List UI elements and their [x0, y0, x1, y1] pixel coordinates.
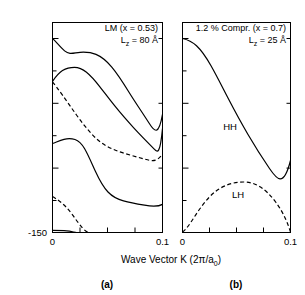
panel-a-frame-top	[53, 23, 163, 233]
panel-a-x-tick-label-1b: 0.1	[156, 236, 169, 247]
panel-b-x-ticks	[210, 228, 264, 233]
x-axis-title-close: )	[218, 254, 221, 265]
panel-a-frame	[53, 23, 163, 233]
figure-root: 0 -50 -100 -150 0 0.1 Energy (meV) LM (x…	[0, 0, 305, 295]
band-structure-figure: 0 -50 -100 -150 0 0.1 Energy (meV) LM (x…	[0, 0, 305, 295]
band-label-lh: LH	[232, 189, 244, 200]
x-axis-title: Wave Vector K (2π/a0)	[121, 254, 221, 267]
curve-panel-a-band-5	[53, 197, 89, 233]
curve-panel-a-band-3	[53, 82, 163, 161]
curve-panel-b-hh	[183, 39, 291, 179]
panel-b-y-ticks	[183, 39, 189, 201]
panel-a-annotation-line2: Lz = 80 Å	[121, 35, 158, 47]
panel-b-anno-value: = 25 Å	[257, 35, 286, 45]
panel-a-y-ticks	[53, 39, 59, 233]
curve-panel-a-band-4	[53, 139, 163, 207]
curve-panel-a-band-1	[53, 39, 163, 131]
panel-b-x-tick-label-0b: 0	[180, 236, 185, 247]
panel-a-caption: (a)	[101, 279, 113, 290]
panel-b-annotation-line1: 1.2 % Compr. (x = 0.7)	[196, 23, 286, 33]
panel-a-curves	[53, 39, 163, 233]
panel-b-caption: (b)	[230, 279, 243, 290]
top-mask-2	[0, 0, 305, 22]
panel-a-anno-value: = 80 Å	[129, 35, 158, 45]
panel-a-annotation-line1: LM (x = 0.53)	[105, 23, 158, 33]
x-axis-title-main: Wave Vector K (2	[121, 254, 199, 265]
panel-b-right-ticks	[287, 39, 291, 169]
panel-b-curves	[183, 39, 291, 233]
panel-a-x-ticks	[80, 228, 135, 233]
panel-a-x-tick-label-0b: 0	[50, 236, 55, 247]
y-tick-label-3b: -150	[28, 227, 47, 238]
panel-b-annotation-line2: Lz = 25 Å	[249, 35, 286, 47]
panel-b-x-tick-label-1b: 0.1	[284, 236, 297, 247]
band-label-hh: HH	[223, 121, 237, 132]
